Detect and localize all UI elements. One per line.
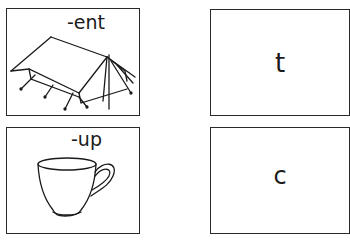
word-ending-label: -ent: [67, 11, 105, 33]
picture-card-cup: -up: [6, 127, 140, 234]
word-ending-label: -up: [71, 128, 102, 150]
answer-card-1: t: [210, 9, 350, 116]
starting-letter: t: [211, 48, 349, 78]
picture-card-tent: -ent: [6, 8, 140, 116]
answer-card-2: c: [210, 127, 350, 234]
tent-icon: [7, 31, 139, 111]
cup-icon: [35, 154, 125, 224]
starting-letter: c: [211, 162, 349, 190]
